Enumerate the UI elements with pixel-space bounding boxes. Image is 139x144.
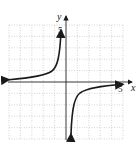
graph: x y 5 5 [0,0,139,144]
right-branch-curve [71,84,123,134]
left-branch-curve [9,30,61,80]
x-tick-5: 5 [118,84,123,94]
x-axis-label: x [130,82,136,93]
y-axis-label: y [56,11,62,22]
